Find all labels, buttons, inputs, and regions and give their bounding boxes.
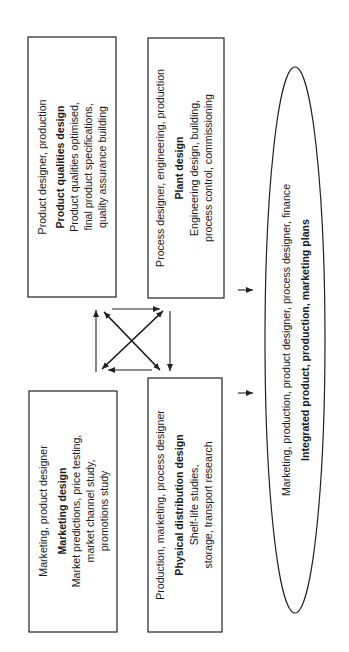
ellipse-roles: Marketing, production, product designer,… bbox=[280, 184, 292, 496]
interaction-arrows bbox=[96, 309, 170, 372]
product-line-1: Product qualities optimised, bbox=[68, 102, 80, 232]
distribution-roles: Production, marketing, process designer bbox=[154, 410, 166, 600]
distribution-line-2: storage, transport research bbox=[202, 441, 214, 568]
distribution-title: Physical distribution design bbox=[173, 434, 185, 575]
physical-distribution-design-box: Production, marketing, process designer … bbox=[148, 378, 222, 632]
product-qualities-design-box: Product designer, production Product qua… bbox=[28, 37, 116, 297]
plant-line-1: Engineering design, building, bbox=[188, 100, 200, 236]
design-process-diagram: Product designer, production Product qua… bbox=[0, 0, 349, 652]
product-roles: Product designer, production bbox=[36, 99, 48, 234]
distribution-line-1: Shelf-life studies, bbox=[188, 465, 200, 546]
marketing-line-1: Market predictions, price testing, bbox=[70, 435, 82, 588]
marketing-title: Marketing design bbox=[56, 467, 68, 554]
product-line-3: quality assurance building bbox=[96, 106, 108, 228]
marketing-design-box: Marketing, product designer Marketing de… bbox=[29, 391, 117, 632]
plant-line-2: process control, commissioning bbox=[202, 94, 214, 242]
product-line-2: final product specifications, bbox=[82, 103, 94, 230]
marketing-line-3: promotions study bbox=[98, 470, 110, 551]
marketing-line-2: market channel study, bbox=[84, 460, 96, 563]
marketing-roles: Marketing, product designer bbox=[37, 445, 49, 577]
plant-roles: Process designer, engineering, productio… bbox=[154, 69, 166, 267]
product-title: Product qualities design bbox=[54, 105, 66, 228]
output-arrows bbox=[238, 290, 253, 393]
plant-design-box: Process designer, engineering, productio… bbox=[148, 38, 224, 298]
plant-title: Plant design bbox=[173, 137, 185, 200]
ellipse-title: Integrated product, production, marketin… bbox=[299, 219, 311, 461]
integrated-plans-ellipse: Marketing, production, product designer,… bbox=[265, 67, 325, 613]
